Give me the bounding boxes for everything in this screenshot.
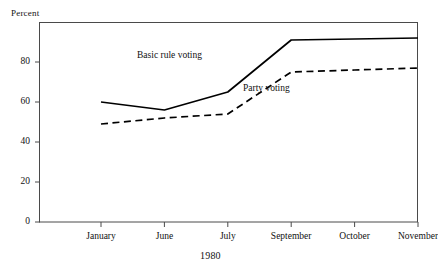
y-tick-label: 0 (4, 216, 30, 226)
x-axis-ticks (101, 222, 418, 227)
x-tick-label: November (398, 231, 438, 241)
x-tick-label: October (339, 231, 370, 241)
series-line-basic-rule-voting (101, 38, 418, 110)
plot-border (40, 23, 418, 223)
x-tick-label: June (156, 231, 173, 241)
series-label-party-voting: Party voting (243, 83, 290, 93)
x-tick-label: January (86, 231, 116, 241)
y-tick-label: 40 (4, 136, 30, 146)
x-axis-title: 1980 (200, 250, 221, 261)
series-label-basic-rule-voting: Basic rule voting (137, 50, 202, 60)
y-axis-title: Percent (11, 8, 39, 18)
series-line-party-voting (101, 68, 418, 124)
x-tick-label: September (271, 231, 312, 241)
y-tick-label: 80 (4, 56, 30, 66)
y-tick-label: 20 (4, 176, 30, 186)
y-tick-label: 60 (4, 96, 30, 106)
plot-frame (40, 23, 418, 223)
x-tick-label: July (220, 231, 236, 241)
